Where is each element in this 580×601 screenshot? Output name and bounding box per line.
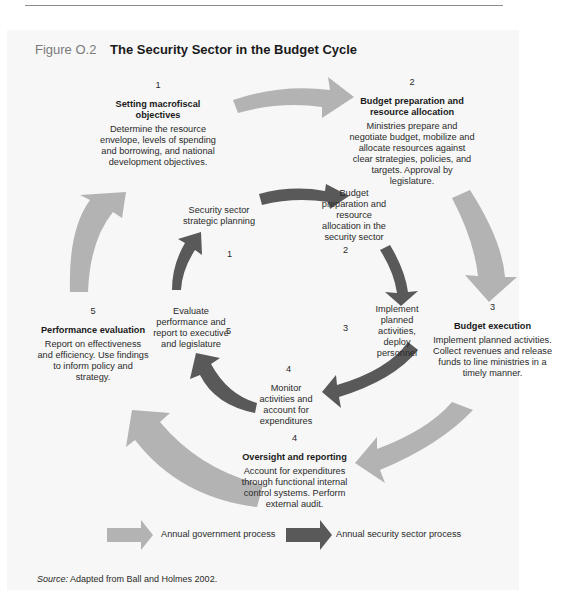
outer-step-3: 3 Budget execution Implement planned act… [430,302,555,379]
outer-step-5-body: Report on effectiveness and efficiency. … [37,339,149,383]
inner-step-4-label: Monitor activities and account for expen… [253,383,319,427]
outer-step-1: 1 Setting macrofiscal objectives Determi… [98,80,218,168]
outer-step-3-number: 3 [430,302,555,313]
cycle-arrows [0,0,580,601]
outer-step-4-number: 4 [232,433,357,444]
inner-step-1-label: Security sector strategic planning [183,205,255,227]
outer-step-5-number: 5 [37,306,149,317]
outer-step-4: 4 Oversight and reporting Account for ex… [232,433,357,510]
outer-arrow-5-to-1 [70,192,126,292]
outer-step-3-body: Implement planned activities. Collect re… [430,335,555,379]
outer-step-3-heading: Budget execution [430,321,555,332]
inner-step-3-number: 3 [343,323,348,333]
outer-step-5-heading: Performance evaluation [37,325,149,336]
outer-step-2-number: 2 [348,77,476,88]
outer-arrow-3-to-4 [355,402,473,483]
inner-arrow-4-to-5 [190,353,257,413]
outer-step-2-body: Ministries prepare and negotiate budget,… [348,121,476,187]
inner-step-1-number: 1 [227,249,232,259]
legend-government-label: Annual government process [161,529,275,539]
legend-arrow-security [286,520,332,550]
inner-step-2-label: Budget preparation and resource allocati… [318,188,390,243]
outer-arrow-1-to-2 [233,77,354,118]
inner-arrow-2-to-3 [380,245,418,306]
outer-step-2: 2 Budget preparation and resource alloca… [348,77,476,187]
outer-step-2-heading: Budget preparation and resource allocati… [348,96,476,118]
outer-step-1-number: 1 [98,80,218,91]
outer-arrow-2-to-3 [452,190,517,302]
legend-arrow-government [107,520,153,550]
source-prefix: Source: [37,574,68,584]
inner-arrow-5-to-1 [172,232,202,290]
inner-step-3-label: Implement planned activities, deploy per… [366,304,428,359]
inner-step-5-label: Evaluate performance and report to execu… [152,306,230,350]
source-note: Source: Adapted from Ball and Holmes 200… [37,574,217,584]
outer-step-4-body: Account for expenditures through functio… [232,466,357,510]
outer-step-1-heading: Setting macrofiscal objectives [98,99,218,121]
outer-step-5: 5 Performance evaluation Report on effec… [37,306,149,383]
inner-step-2-number: 2 [343,245,348,255]
source-text: Adapted from Ball and Holmes 2002. [70,574,217,584]
outer-step-4-heading: Oversight and reporting [232,452,357,463]
inner-step-5-number: 5 [226,326,231,336]
inner-step-4-number: 4 [286,364,291,374]
outer-step-1-body: Determine the resource envelope, levels … [98,124,218,168]
legend-security-label: Annual security sector process [336,529,461,539]
